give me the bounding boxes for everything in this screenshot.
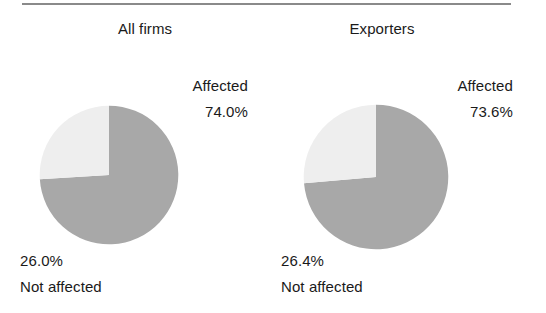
label-all-firms-not-affected-name: Not affected bbox=[20, 278, 102, 295]
panel-title-all-firms: All firms bbox=[78, 20, 212, 37]
panel-title-exporters: Exporters bbox=[315, 20, 449, 37]
pie-all-firms bbox=[39, 105, 179, 245]
pie-slice-exporters-not-affected bbox=[304, 105, 376, 184]
top-divider-rule bbox=[22, 3, 511, 5]
label-all-firms-not-affected-value: 26.0% bbox=[20, 252, 63, 269]
label-all-firms-affected-value: 74.0% bbox=[118, 103, 248, 120]
label-exporters-affected-value: 73.6% bbox=[383, 103, 513, 120]
pie-exporters-svg bbox=[303, 104, 449, 250]
label-all-firms-affected-name: Affected bbox=[118, 77, 248, 94]
label-exporters-not-affected-name: Not affected bbox=[281, 278, 363, 295]
pie-slice-all-firms-not-affected bbox=[40, 106, 109, 180]
label-exporters-not-affected-value: 26.4% bbox=[281, 252, 324, 269]
pie-chart-figure: All firms Affected 74.0% 26.0% Not affec… bbox=[0, 0, 546, 313]
pie-exporters bbox=[303, 104, 449, 250]
label-exporters-affected-name: Affected bbox=[383, 77, 513, 94]
pie-all-firms-svg bbox=[39, 105, 179, 245]
